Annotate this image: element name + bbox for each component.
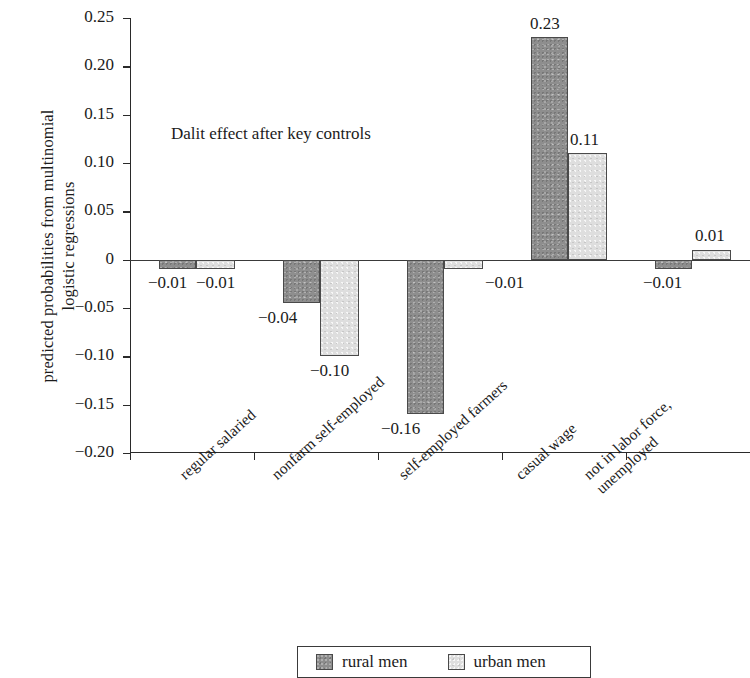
- x-tick-0: [130, 453, 131, 460]
- legend-label-urban-men: urban men: [474, 652, 546, 672]
- bar-value-rural-4: −0.01: [643, 273, 682, 293]
- x-tick-2: [378, 453, 379, 460]
- bar-value-rural-2: −0.16: [381, 419, 420, 439]
- bar-rural-not-in-labor-force[interactable]: [655, 260, 692, 270]
- bar-rural-casual-wage[interactable]: [531, 37, 568, 259]
- y-tick-label-1: 0.20: [44, 55, 114, 75]
- bar-value-rural-0: −0.01: [148, 273, 187, 293]
- y-tick-4: 0.05: [123, 211, 130, 212]
- y-tick-label-9: −0.20: [44, 442, 114, 462]
- chart-annotation: Dalit effect after key controls: [171, 124, 371, 144]
- y-tick-7: −0.10: [123, 356, 130, 357]
- y-tick-label-0: 0.25: [44, 7, 114, 27]
- y-tick-label-2: 0.15: [44, 104, 114, 124]
- legend-swatch-rural-icon: [316, 654, 333, 670]
- legend-item-rural-men[interactable]: rural men: [316, 652, 408, 672]
- y-tick-3: 0.10: [123, 163, 130, 164]
- bar-urban-casual-wage[interactable]: [568, 153, 607, 259]
- y-tick-label-3: 0.10: [44, 152, 114, 172]
- y-tick-1: 0.20: [123, 66, 130, 67]
- bar-rural-regular-salaried[interactable]: [159, 260, 196, 270]
- bar-value-rural-3: 0.23: [530, 14, 560, 34]
- legend-swatch-urban-icon: [448, 654, 465, 670]
- bar-value-urban-0: −0.01: [196, 273, 235, 293]
- y-tick-label-5: 0: [44, 249, 114, 269]
- y-axis-line: [130, 18, 131, 453]
- y-tick-2: 0.15: [123, 115, 130, 116]
- bar-rural-self-employed-farmers[interactable]: [407, 260, 444, 415]
- x-tick-1: [254, 453, 255, 460]
- bar-rural-nonfarm-self-employed[interactable]: [283, 260, 320, 304]
- y-tick-8: −0.15: [123, 405, 130, 406]
- y-tick-0: 0.25: [123, 18, 130, 19]
- y-tick-5: 0: [123, 260, 130, 261]
- bar-value-urban-3: 0.11: [570, 130, 599, 150]
- x-tick-3: [502, 453, 503, 460]
- y-tick-6: −0.05: [123, 308, 130, 309]
- plot-area: 0.25 0.20 0.15 0.10 0.05 0 −0.05 −0.10 −…: [130, 18, 750, 453]
- y-tick-label-7: −0.10: [44, 345, 114, 365]
- y-tick-label-4: 0.05: [44, 200, 114, 220]
- bar-urban-self-employed-farmers[interactable]: [444, 260, 483, 270]
- legend-label-rural-men: rural men: [342, 652, 408, 672]
- bar-urban-nonfarm-self-employed[interactable]: [320, 260, 359, 357]
- y-tick-9: −0.20: [123, 453, 130, 454]
- y-axis-title-line-1: predicted probabilities from multinomial: [37, 110, 58, 383]
- legend: rural men urban men: [297, 646, 591, 678]
- bar-value-urban-1: −0.10: [310, 361, 349, 381]
- y-tick-label-8: −0.15: [44, 394, 114, 414]
- y-tick-label-6: −0.05: [44, 297, 114, 317]
- legend-item-urban-men[interactable]: urban men: [448, 652, 546, 672]
- bar-urban-not-in-labor-force[interactable]: [692, 250, 731, 260]
- bar-value-urban-4: 0.01: [695, 226, 725, 246]
- bar-value-urban-2: −0.01: [485, 273, 524, 293]
- bar-urban-regular-salaried[interactable]: [196, 260, 235, 270]
- bar-value-rural-1: −0.04: [258, 308, 297, 328]
